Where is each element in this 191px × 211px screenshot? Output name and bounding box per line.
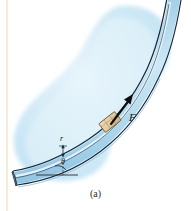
angle-label: θ <box>61 158 65 166</box>
radius-label: r <box>60 135 63 143</box>
figure-caption: (a) <box>0 188 191 199</box>
force-label: F <box>129 112 136 123</box>
figure-illustration <box>0 0 191 211</box>
figure-container: F r θ (a) <box>0 0 191 211</box>
